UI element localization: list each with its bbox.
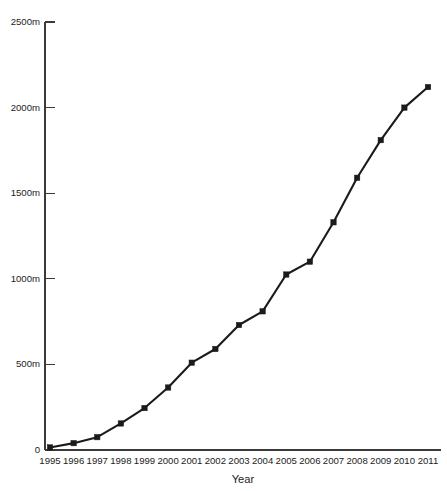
y-axis-tick-label: 1000m [11, 273, 40, 284]
data-point-marker [354, 175, 359, 180]
data-point-marker [213, 346, 218, 351]
line-chart: 0500m1000m1500m2000m2500m 19951996199719… [0, 0, 447, 491]
x-axis-tick-labels: 1995199619971998199920002001200220032004… [39, 455, 438, 466]
data-point-marker [189, 360, 194, 365]
y-axis-tick-labels: 0500m1000m1500m2000m2500m [11, 16, 40, 455]
x-axis-tick-label: 2010 [394, 455, 415, 466]
x-axis-tick-label: 1997 [87, 455, 108, 466]
x-axis-tick-label: 2008 [346, 455, 367, 466]
y-axis-tick-label: 500m [16, 358, 40, 369]
x-axis-tick-label: 2006 [299, 455, 320, 466]
x-axis-tick-label: 2009 [370, 455, 391, 466]
data-point-marker [95, 434, 100, 439]
data-point-marker [307, 259, 312, 264]
x-axis-tick-label: 1995 [39, 455, 60, 466]
x-axis-tick-label: 2005 [276, 455, 297, 466]
x-axis-tick-label: 1996 [63, 455, 84, 466]
data-point-marker [425, 84, 430, 89]
data-point-marker [402, 105, 407, 110]
x-axis-tick-label: 2011 [418, 455, 439, 466]
data-point-marker [71, 440, 76, 445]
y-axis-tick-label: 1500m [11, 187, 40, 198]
data-point-marker [260, 309, 265, 314]
y-axis: 0500m1000m1500m2000m2500m [11, 16, 55, 455]
data-point-marker [142, 405, 147, 410]
data-series [47, 84, 430, 450]
x-axis-tick-label: 2004 [252, 455, 274, 466]
x-axis-tick-label: 2003 [228, 455, 249, 466]
data-point-marker [165, 385, 170, 390]
y-axis-tick-label: 0 [35, 444, 40, 455]
data-point-marker [331, 220, 336, 225]
y-axis-tick-label: 2500m [11, 16, 40, 27]
y-axis-ticks [45, 22, 55, 364]
x-axis-title: Year [232, 473, 255, 485]
series-markers [47, 84, 430, 450]
data-point-marker [236, 322, 241, 327]
x-axis-tick-label: 2007 [323, 455, 344, 466]
data-point-marker [47, 445, 52, 450]
x-axis-tick-label: 1998 [110, 455, 131, 466]
data-point-marker [284, 272, 289, 277]
x-axis-tick-label: 1999 [134, 455, 155, 466]
x-axis-tick-label: 2001 [181, 455, 202, 466]
y-axis-tick-label: 2000m [11, 102, 40, 113]
series-line [50, 87, 428, 447]
x-axis-tick-label: 2000 [157, 455, 178, 466]
data-point-marker [378, 137, 383, 142]
x-axis-tick-label: 2002 [205, 455, 226, 466]
x-axis: 1995199619971998199920002001200220032004… [39, 450, 441, 466]
data-point-marker [118, 421, 123, 426]
chart-canvas: 0500m1000m1500m2000m2500m 19951996199719… [0, 0, 447, 491]
